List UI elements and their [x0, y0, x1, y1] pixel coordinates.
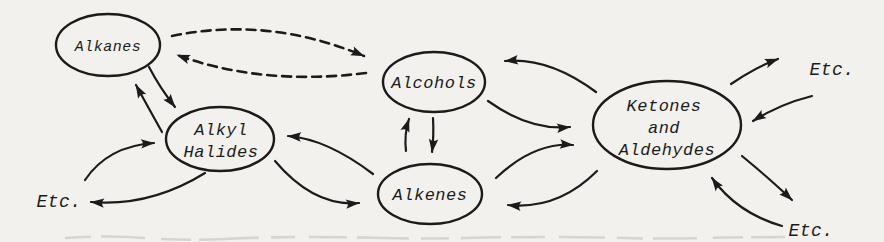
diagram-canvas: Alkanes Alkyl Halides Alcohols Alkenes K… — [0, 0, 884, 242]
edge-alkyl-halides-to-alkanes — [136, 85, 162, 132]
edge-alkanes-to-alcohols-dashed — [172, 29, 364, 56]
edge-etc-top-right-to-ketones — [753, 96, 812, 121]
reaction-diagram: Alkanes Alkyl Halides Alcohols Alkenes K… — [0, 0, 884, 242]
etc-bottom-right-label: Etc. — [788, 221, 833, 241]
edge-alcohols-to-alkenes — [432, 118, 433, 152]
alkanes-label: Alkanes — [74, 39, 142, 56]
alkyl-halides-label-line2: Halides — [184, 143, 259, 162]
node-alcohols: Alcohols — [383, 52, 485, 112]
edge-alcohols-to-ketones — [488, 101, 570, 127]
edge-alkanes-to-alkyl-halides — [149, 67, 175, 107]
ketones-aldehydes-label-line2: and — [648, 119, 680, 138]
edge-alkenes-to-ketones — [496, 145, 573, 178]
ketones-aldehydes-label-line3: Aldehydes — [618, 141, 715, 160]
alkenes-label: Alkenes — [392, 186, 468, 205]
node-alkyl-halides: Alkyl Halides — [166, 107, 274, 171]
edge-ketones-to-alcohols — [505, 61, 596, 92]
edge-alkenes-to-alcohols — [405, 119, 409, 151]
node-ketones-aldehydes: Ketones and Aldehydes — [593, 81, 741, 169]
alcohols-label: Alcohols — [390, 74, 477, 93]
edge-alkenes-to-alkyl-halides — [288, 136, 373, 174]
edge-ketones-to-etc-top-right — [731, 59, 778, 84]
edge-etc-bottom-right-to-ketones — [712, 178, 782, 226]
etc-left-label: Etc. — [36, 192, 81, 212]
node-alkanes: Alkanes — [56, 14, 160, 76]
edge-alkyl-halides-to-etc-left — [91, 173, 205, 203]
edge-ketones-to-alkenes — [508, 171, 597, 206]
edge-alkyl-halides-to-alkenes — [275, 161, 359, 203]
scan-artifact-line — [65, 237, 785, 240]
node-alkenes: Alkenes — [378, 164, 482, 224]
edge-etc-left-to-alkyl-halides — [85, 143, 154, 180]
edge-alcohols-to-alkanes-dashed — [177, 55, 366, 77]
ketones-aldehydes-label-line1: Ketones — [627, 97, 702, 116]
edge-ketones-to-etc-bottom-right — [742, 156, 792, 200]
etc-top-right-label: Etc. — [809, 60, 854, 80]
alkyl-halides-label-line1: Alkyl — [193, 121, 248, 140]
